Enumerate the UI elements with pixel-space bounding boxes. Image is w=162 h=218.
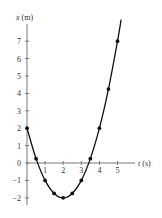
data-point — [88, 157, 92, 161]
x-tick-label: 4 — [97, 166, 101, 175]
y-tick-label: 7 — [17, 37, 21, 46]
data-point — [70, 192, 74, 196]
y-axis-label: x (m) — [15, 13, 33, 22]
x-tick-label: 3 — [79, 166, 83, 175]
data-point — [98, 126, 102, 130]
data-curve — [27, 20, 121, 198]
y-tick-label: 3 — [17, 107, 21, 116]
x-axis-label: t (s) — [138, 159, 151, 168]
position-time-chart: 1234576543210−1−2 x (m) t (s) — [0, 0, 162, 218]
y-tick-label: 5 — [17, 72, 21, 81]
ticks: 1234576543210−1−2 — [12, 37, 119, 203]
data-point — [116, 39, 120, 43]
y-tick-label: 4 — [17, 89, 21, 98]
data-points — [25, 39, 119, 199]
x-tick-label: 2 — [61, 166, 65, 175]
x-tick-label: 5 — [116, 166, 120, 175]
data-point — [79, 179, 83, 183]
y-tick-label: −2 — [12, 194, 21, 203]
data-point — [52, 192, 56, 196]
y-tick-label: 0 — [17, 159, 21, 168]
data-point — [34, 157, 38, 161]
y-tick-label: 1 — [17, 142, 21, 151]
data-point — [43, 179, 47, 183]
data-point — [107, 87, 111, 91]
data-point — [25, 126, 29, 130]
x-tick-label: 1 — [43, 166, 47, 175]
y-tick-label: −1 — [12, 176, 21, 185]
y-tick-label: 6 — [17, 55, 21, 64]
y-tick-label: 2 — [17, 124, 21, 133]
data-point — [61, 196, 65, 200]
